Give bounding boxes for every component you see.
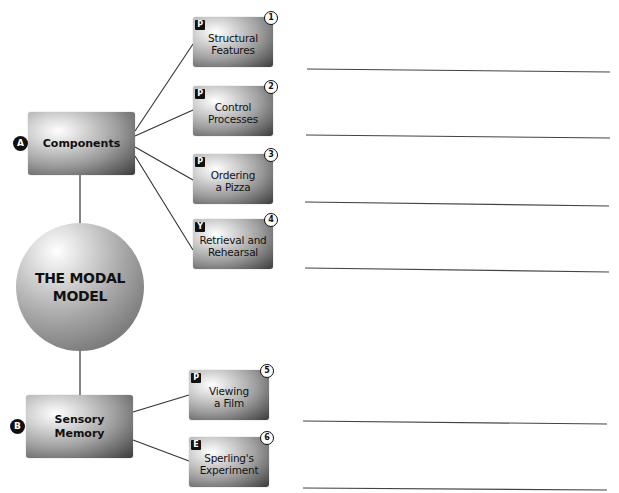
number-circle: 2 [264,80,278,94]
child-label: Retrieval and Rehearsal [199,234,266,258]
child-node-5: P 5 Viewing a Film [189,370,269,420]
child-label: Control Processes [208,101,258,125]
tag-icon: P [195,20,205,30]
number-circle: 5 [260,364,274,378]
tag-icon: P [195,89,205,99]
child-label: Sperling's Experiment [200,452,259,476]
answer-lines [303,69,610,490]
child-node-2: P 2 Control Processes [193,86,273,136]
components-label: Components [43,137,120,151]
sensory-memory-node: Sensory Memory [26,395,133,458]
child-label: Structural Features [208,32,258,56]
child-label: Viewing a Film [209,385,249,409]
badge-a: A [13,136,28,151]
center-label: THE MODAL MODEL [35,269,125,305]
child-label: Ordering a Pizza [211,169,255,193]
tag-icon: P [195,157,205,167]
components-node: Components [28,112,135,175]
badge-b: B [10,419,25,434]
sensory-memory-label: Sensory Memory [54,413,104,441]
child-node-6: E 6 Sperling's Experiment [189,437,269,487]
tag-icon: P [191,373,201,383]
child-node-1: P 1 Structural Features [193,17,273,67]
modal-model-sphere: THE MODAL MODEL [16,223,144,351]
number-circle: 4 [264,213,278,227]
child-node-4: Y 4 Retrieval and Rehearsal [193,219,273,269]
tag-icon: E [191,440,201,450]
number-circle: 1 [264,11,278,25]
tag-icon: Y [195,222,205,232]
number-circle: 3 [264,148,278,162]
number-circle: 6 [260,431,274,445]
child-node-3: P 3 Ordering a Pizza [193,154,273,204]
